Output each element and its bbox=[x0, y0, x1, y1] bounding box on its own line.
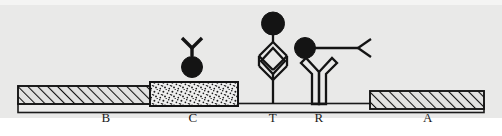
label-c: C bbox=[188, 110, 197, 125]
label-a: A bbox=[423, 110, 433, 125]
label-t: T bbox=[269, 110, 277, 125]
figure-container: B C T R A bbox=[0, 0, 502, 136]
gold-bead-conjugate bbox=[182, 57, 203, 78]
background-panel-fade bbox=[0, 0, 502, 5]
label-b: B bbox=[101, 110, 110, 125]
block-conjugate-pad-c bbox=[150, 82, 238, 106]
label-r: R bbox=[314, 110, 323, 125]
gold-bead-control bbox=[295, 38, 316, 59]
block-absorbent-pad-a bbox=[370, 91, 484, 109]
lateral-flow-diagram: B C T R A bbox=[0, 0, 502, 136]
gold-bead-test bbox=[262, 12, 285, 35]
block-sample-pad-b bbox=[18, 86, 152, 104]
